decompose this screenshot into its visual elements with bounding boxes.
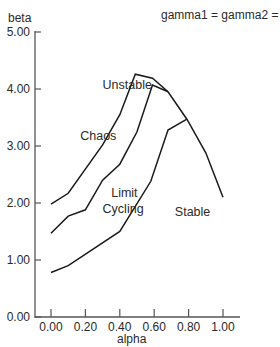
x-tick-label: 0.00 xyxy=(39,320,63,334)
x-tick-label: 0.20 xyxy=(74,320,98,334)
series-lines xyxy=(51,74,223,272)
region-label-limit: Limit xyxy=(111,186,138,200)
y-axis-title: beta xyxy=(8,11,32,25)
y-tick-label: 3.00 xyxy=(7,139,31,153)
y-tick-label: 1.00 xyxy=(7,253,31,267)
chart-subtitle: gamma1 = gamma2 = 1 xyxy=(161,8,280,22)
chart-canvas: beta gamma1 = gamma2 = 1 0.000.200.400.6… xyxy=(0,0,280,347)
x-tick-label: 1.00 xyxy=(211,320,235,334)
region-label-stable: Stable xyxy=(175,205,210,219)
y-tick-label: 4.00 xyxy=(7,82,31,96)
region-label-chaos: Chaos xyxy=(80,129,116,143)
y-tick-label: 5.00 xyxy=(7,25,31,39)
region-label-cycling: Cycling xyxy=(103,202,144,216)
x-axis-title: alpha xyxy=(117,332,147,346)
y-tick-label: 2.00 xyxy=(7,196,31,210)
x-tick-label: 0.80 xyxy=(177,320,201,334)
y-tick-label: 0.00 xyxy=(7,310,31,324)
series-line-1 xyxy=(51,74,223,204)
region-label-unstable: Unstable xyxy=(103,78,152,92)
x-axis-ticks: 0.000.200.400.600.801.00 xyxy=(39,309,235,334)
y-axis-ticks: 0.001.002.003.004.005.00 xyxy=(7,25,41,324)
